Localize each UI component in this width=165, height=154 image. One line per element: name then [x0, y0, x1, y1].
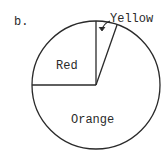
label-orange: Orange	[71, 113, 114, 127]
pie-chart: Red Yellow Orange	[0, 0, 165, 154]
arrowhead-icon	[99, 27, 105, 31]
label-yellow: Yellow	[110, 12, 154, 26]
yellow-slice-edge	[96, 25, 117, 85]
label-red: Red	[56, 59, 78, 73]
